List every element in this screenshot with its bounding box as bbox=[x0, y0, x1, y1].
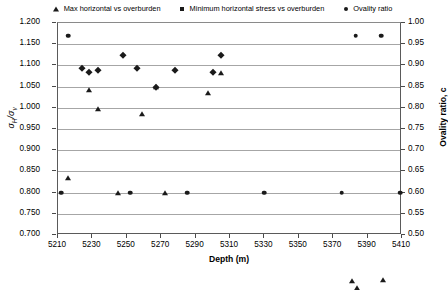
y-axis-left-tick-mark bbox=[52, 149, 56, 150]
y-axis-left-tick-mark bbox=[52, 234, 56, 235]
plot-area bbox=[57, 22, 401, 234]
data-point bbox=[139, 111, 145, 116]
y-axis-right-tick-mark bbox=[401, 213, 405, 214]
gridline bbox=[58, 129, 400, 130]
data-point bbox=[262, 190, 267, 195]
data-point bbox=[86, 87, 92, 92]
y-axis-left-tick-label: 0.750 bbox=[0, 209, 40, 217]
data-point bbox=[353, 33, 358, 38]
data-point bbox=[379, 33, 384, 38]
gridline bbox=[58, 193, 400, 194]
y-axis-right-tick-label: 0.60 bbox=[408, 188, 440, 196]
x-axis-tick-mark bbox=[401, 234, 402, 238]
x-axis-tick-mark bbox=[263, 234, 264, 238]
data-point bbox=[94, 66, 100, 72]
circle-marker-icon bbox=[342, 5, 349, 13]
x-axis-tick-mark bbox=[195, 234, 196, 238]
gridline bbox=[58, 65, 400, 66]
diamond-marker-icon bbox=[179, 5, 186, 13]
y-axis-left-tick-label: 0.950 bbox=[0, 124, 40, 132]
y-axis-right-tick-mark bbox=[401, 170, 405, 171]
x-axis-tick-mark bbox=[57, 234, 58, 238]
data-point bbox=[115, 190, 121, 195]
y-axis-left-tick-mark bbox=[52, 64, 56, 65]
x-axis-tick-mark bbox=[298, 234, 299, 238]
y-axis-right-tick-mark bbox=[401, 128, 405, 129]
y-axis-left-tick-label: 1.200 bbox=[0, 18, 40, 26]
y-axis-right-tick-label: 0.50 bbox=[408, 230, 440, 238]
y-axis-right-tick-label: 0.70 bbox=[408, 145, 440, 153]
gridline bbox=[58, 150, 400, 151]
y-axis-right-tick-label: 1.00 bbox=[408, 18, 440, 26]
data-point bbox=[59, 190, 64, 195]
legend-item-ovality-ratio: Ovality ratio bbox=[342, 5, 392, 13]
x-axis-title: Depth (m) bbox=[57, 254, 401, 264]
legend-label-ovality-ratio: Ovality ratio bbox=[353, 5, 392, 13]
data-point bbox=[185, 190, 190, 195]
x-axis-tick-mark bbox=[332, 234, 333, 238]
data-point bbox=[65, 175, 71, 180]
data-point bbox=[218, 70, 224, 75]
data-point bbox=[340, 190, 345, 195]
data-point bbox=[120, 52, 126, 58]
x-axis-tick-mark bbox=[126, 234, 127, 238]
y-axis-left-tick-label: 1.150 bbox=[0, 39, 40, 47]
x-axis-tick-mark bbox=[367, 234, 368, 238]
data-point bbox=[210, 69, 216, 75]
y-axis-left-tick-label: 0.800 bbox=[0, 188, 40, 196]
y-axis-right-tick-label: 0.90 bbox=[408, 60, 440, 68]
data-point bbox=[349, 278, 355, 283]
y-axis-left-tick-label: 1.000 bbox=[0, 103, 40, 111]
y-axis-right-tick-label: 0.75 bbox=[408, 124, 440, 132]
y-axis-right-tick-label: 0.80 bbox=[408, 103, 440, 111]
y-axis-left-title: σH/σv bbox=[6, 88, 18, 148]
y-axis-right-tick-mark bbox=[401, 22, 405, 23]
y-axis-right-tick-mark bbox=[401, 43, 405, 44]
data-point bbox=[354, 285, 360, 290]
x-axis-tick-mark bbox=[91, 234, 92, 238]
gridline bbox=[58, 214, 400, 215]
y-axis-left-tick-mark bbox=[52, 86, 56, 87]
gridline bbox=[58, 171, 400, 172]
y-axis-left-tick-mark bbox=[52, 107, 56, 108]
legend-label-max-horizontal: Max horizontal vs overburden bbox=[64, 5, 161, 13]
data-point bbox=[86, 69, 92, 75]
y-axis-left-tick-label: 1.100 bbox=[0, 60, 40, 68]
data-point bbox=[66, 33, 71, 38]
gridline bbox=[58, 87, 400, 88]
y-axis-left-tick-mark bbox=[52, 192, 56, 193]
y-axis-right-tick-mark bbox=[401, 149, 405, 150]
y-axis-left-tick-mark bbox=[52, 128, 56, 129]
y-axis-left-tick-mark bbox=[52, 170, 56, 171]
chart-legend: Max horizontal vs overburden Minimum hor… bbox=[0, 2, 445, 15]
triangle-marker-icon bbox=[53, 5, 60, 13]
legend-item-min-horizontal: Minimum horizontal stress vs overburden bbox=[179, 5, 325, 13]
legend-label-min-horizontal: Minimum horizontal stress vs overburden bbox=[190, 5, 325, 13]
gridline bbox=[58, 44, 400, 45]
data-point bbox=[380, 277, 386, 282]
data-point bbox=[128, 190, 133, 195]
y-axis-right-tick-label: 0.65 bbox=[408, 166, 440, 174]
y-axis-left-tick-mark bbox=[52, 22, 56, 23]
y-axis-left-tick-mark bbox=[52, 43, 56, 44]
y-axis-left-tick-mark bbox=[52, 213, 56, 214]
y-axis-right-tick-label: 0.55 bbox=[408, 209, 440, 217]
y-axis-right-tick-mark bbox=[401, 107, 405, 108]
x-axis-tick-label: 5410 bbox=[381, 240, 421, 249]
y-axis-right-tick-mark bbox=[401, 86, 405, 87]
y-axis-left-tick-label: 0.850 bbox=[0, 166, 40, 174]
y-axis-left-tick-label: 0.900 bbox=[0, 145, 40, 153]
data-point bbox=[172, 66, 178, 72]
y-axis-left-tick-label: 1.050 bbox=[0, 82, 40, 90]
data-point bbox=[205, 90, 211, 95]
legend-item-max-horizontal: Max horizontal vs overburden bbox=[53, 5, 161, 13]
data-point bbox=[95, 106, 101, 111]
y-axis-right-tick-label: 0.95 bbox=[408, 39, 440, 47]
data-point bbox=[218, 52, 224, 58]
x-axis-tick-mark bbox=[229, 234, 230, 238]
gridline bbox=[58, 108, 400, 109]
data-point bbox=[398, 190, 403, 195]
data-point bbox=[162, 190, 168, 195]
y-axis-left-tick-label: 0.700 bbox=[0, 230, 40, 238]
